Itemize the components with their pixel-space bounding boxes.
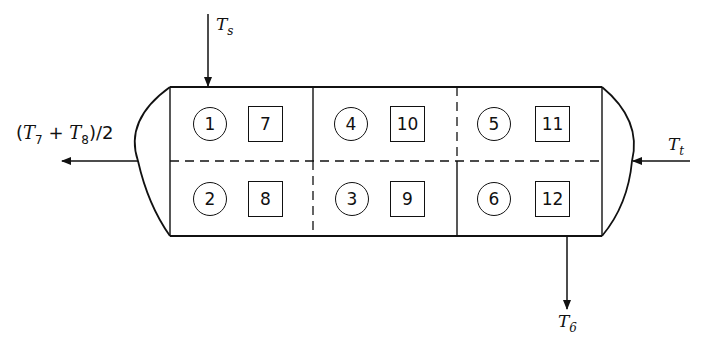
output-label-bottom: T6 <box>558 313 577 330</box>
plus: + <box>43 122 70 143</box>
left-end-cap <box>135 87 170 236</box>
subscript: s <box>227 24 233 38</box>
subscript: t <box>679 144 684 158</box>
vessel-drawing <box>0 0 718 350</box>
subscript: 6 <box>569 321 577 335</box>
symbol: T <box>23 122 35 143</box>
node-circle: 1 <box>193 107 227 141</box>
output-label-left: (T7 + T8)/2 <box>16 124 113 142</box>
node-circle: 6 <box>477 182 511 216</box>
node-circle: 4 <box>334 107 368 141</box>
node-square: 11 <box>535 106 570 142</box>
node-square: 12 <box>535 181 570 217</box>
node-square: 7 <box>248 106 283 142</box>
symbol: T <box>216 14 227 34</box>
symbol: T <box>668 134 679 154</box>
node-circle: 5 <box>477 107 511 141</box>
subscript: 7 <box>35 133 43 147</box>
symbol: T <box>558 311 569 331</box>
node-square: 10 <box>390 106 425 142</box>
input-label-right: Tt <box>668 136 684 153</box>
node-circle: 2 <box>193 182 227 216</box>
node-square: 8 <box>248 181 283 217</box>
node-square: 9 <box>390 181 425 217</box>
input-label-top: Ts <box>216 16 234 33</box>
symbol: T <box>69 122 81 143</box>
paren-open: ( <box>16 122 23 143</box>
node-circle: 3 <box>335 182 369 216</box>
subscript: 8 <box>81 133 89 147</box>
paren-close-half: )/2 <box>89 122 114 143</box>
right-end-cap <box>602 87 634 236</box>
